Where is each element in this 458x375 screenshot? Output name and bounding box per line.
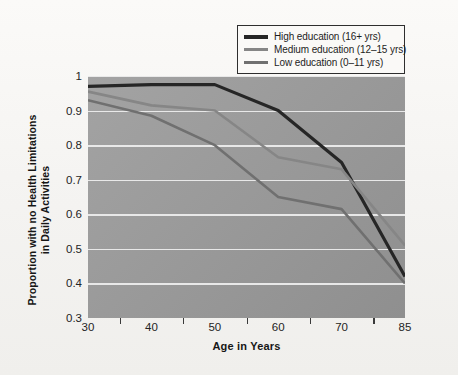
series-lines [88, 76, 405, 318]
y-axis-tick-label: 0.5 [66, 243, 82, 255]
y-axis-title-line-1: Proportion with no Health Limitations [26, 85, 39, 335]
plot-area [88, 76, 405, 318]
series-line [88, 92, 405, 246]
legend-label-high-education: High education (16+ yrs) [274, 31, 381, 42]
y-axis-title: Proportion with no Health Limitations in… [26, 85, 52, 335]
x-axis-tick-label: 60 [272, 321, 285, 333]
series-line [88, 85, 405, 277]
legend-swatch-medium-education [244, 48, 268, 51]
y-axis-tick-label: 0.7 [66, 174, 82, 186]
chart-legend: High education (16+ yrs) Medium educatio… [237, 25, 405, 74]
legend-swatch-high-education [244, 35, 268, 39]
x-axis-tick-label: 40 [145, 321, 158, 333]
y-axis-title-line-2: in Daily Activities [39, 85, 52, 335]
x-axis-tick-labels: 304050607085 [88, 321, 405, 339]
y-axis-tick-label: 0.6 [66, 208, 82, 220]
y-axis-tick-label: 0.4 [66, 277, 82, 289]
x-axis-tick-label: 85 [399, 321, 412, 333]
y-axis-tick-labels: 10.90.80.70.60.50.40.3 [48, 76, 82, 318]
x-axis-tick-label: 30 [82, 321, 95, 333]
chart-figure: High education (16+ yrs) Medium educatio… [0, 0, 458, 375]
x-axis-title: Age in Years [88, 340, 405, 352]
y-axis-tick-label: 0.3 [66, 312, 82, 324]
y-axis-tick-label: 0.9 [66, 105, 82, 117]
legend-item-medium-education: Medium education (12–15 yrs) [244, 43, 399, 56]
legend-label-low-education: Low education (0–11 yrs) [274, 57, 383, 68]
legend-item-high-education: High education (16+ yrs) [244, 30, 399, 43]
x-axis-tick-label: 50 [208, 321, 221, 333]
legend-item-low-education: Low education (0–11 yrs) [244, 56, 399, 69]
y-axis-tick-label: 1 [76, 70, 82, 82]
x-axis-tick-label: 70 [335, 321, 348, 333]
legend-label-medium-education: Medium education (12–15 yrs) [274, 44, 406, 55]
legend-swatch-low-education [244, 61, 268, 64]
y-axis-tick-label: 0.8 [66, 139, 82, 151]
